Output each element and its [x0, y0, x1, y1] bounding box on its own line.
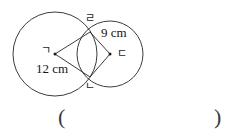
measure-label-left-radius: 12 cm: [36, 62, 68, 75]
answer-close-paren: ): [214, 106, 221, 128]
segment-digeut-nieun: [90, 54, 110, 77]
answer-blank-row: ( ): [0, 106, 227, 137]
vertex-label-giyeok: ㄱ: [41, 45, 51, 56]
answer-open-paren: (: [58, 106, 65, 128]
left-center-dot: [54, 53, 57, 56]
segment-giyeok-rieul: [55, 32, 90, 54]
measure-label-right-radius: 9 cm: [101, 26, 127, 39]
geometry-problem-figure: ㄱ ㄹ ㄷ ㄴ 12 cm 9 cm ( ): [0, 0, 227, 137]
vertex-label-nieun: ㄴ: [85, 81, 95, 92]
vertex-label-rieul: ㄹ: [85, 13, 95, 24]
right-center-dot: [109, 53, 112, 56]
vertex-label-digeut: ㄷ: [117, 48, 127, 59]
